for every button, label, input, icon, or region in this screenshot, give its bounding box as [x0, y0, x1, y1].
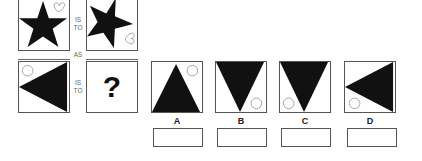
as-label: AS — [71, 51, 85, 59]
option-c-figure[interactable] — [279, 61, 331, 113]
triangle-up-icon — [152, 62, 202, 112]
heart-icon — [125, 33, 134, 44]
premise-box-3 — [18, 61, 70, 113]
option-a-label: A — [151, 116, 203, 126]
is-text: IS — [72, 16, 84, 24]
separator-line-right — [86, 59, 138, 60]
to-text: TO — [72, 87, 84, 95]
is-text: IS — [72, 79, 84, 87]
triangle-left-icon — [345, 62, 395, 112]
rotated-star-icon — [87, 0, 137, 50]
circle-icon — [349, 98, 360, 109]
option-d-label: D — [344, 116, 396, 126]
question-mark: ? — [87, 62, 137, 112]
star-icon — [19, 0, 69, 50]
separator-line-left — [18, 59, 70, 60]
option-b-figure[interactable] — [215, 61, 267, 113]
circle-icon — [22, 65, 33, 76]
option-c-label: C — [279, 116, 331, 126]
option-b-label: B — [215, 116, 267, 126]
premise-box-1 — [18, 0, 70, 51]
option-c-answer-box[interactable] — [281, 128, 331, 147]
premise-box-2 — [86, 0, 138, 51]
circle-icon — [251, 98, 262, 109]
unknown-answer-box: ? — [86, 61, 138, 113]
circle-icon — [283, 98, 294, 109]
option-d-answer-box[interactable] — [347, 128, 397, 147]
option-b-answer-box[interactable] — [217, 128, 267, 147]
triangle-left-icon — [19, 62, 69, 112]
circle-icon — [187, 65, 198, 76]
is-to-label-1: IS TO — [72, 16, 84, 32]
option-a-answer-box[interactable] — [153, 128, 203, 147]
option-d-figure[interactable] — [344, 61, 396, 113]
triangle-down-icon — [216, 62, 266, 112]
option-a-figure[interactable] — [151, 61, 203, 113]
heart-icon — [54, 3, 65, 12]
triangle-down-icon — [280, 62, 330, 112]
is-to-label-2: IS TO — [72, 79, 84, 95]
to-text: TO — [72, 24, 84, 32]
